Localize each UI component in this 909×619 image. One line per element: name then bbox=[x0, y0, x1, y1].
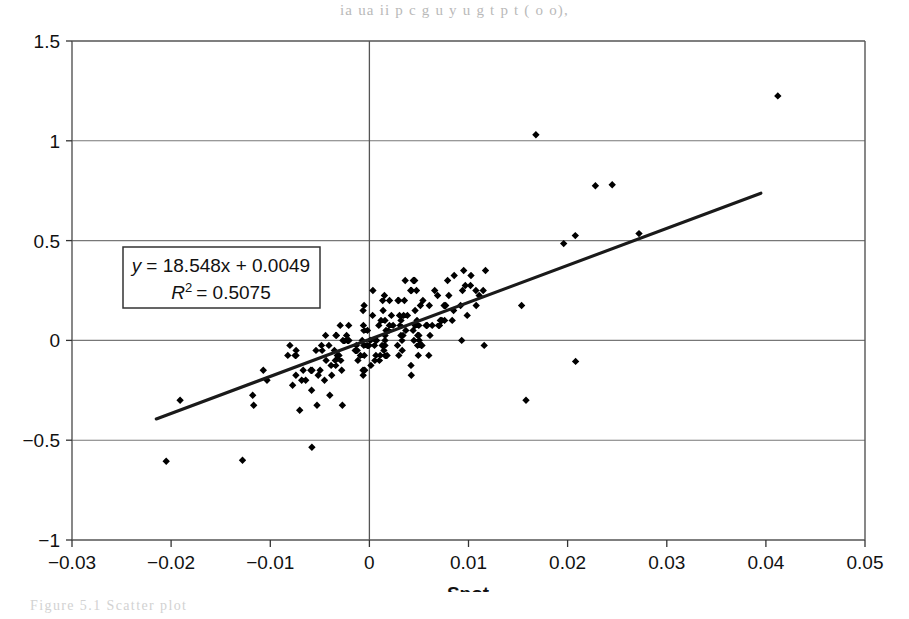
y-axis-ticks bbox=[66, 41, 72, 540]
y-tick-label: 1.5 bbox=[34, 31, 60, 52]
y-axis-tick-labels: 1.5 1 0.5 0 −0.5 −1 bbox=[22, 31, 60, 551]
equation-lhs: y bbox=[130, 255, 143, 276]
r-squared-value: = 0.5075 bbox=[196, 282, 271, 303]
scatter-chart: 1.5 1 0.5 0 −0.5 −1 −0.03 −0.02 −0.01 0 … bbox=[0, 18, 909, 592]
scatter-plot-figure: ia ua ii p c g u y u g t p t ( o o), bbox=[0, 0, 909, 619]
x-tick-label: 0.03 bbox=[648, 552, 685, 573]
equation-rhs: = 18.548x + 0.0049 bbox=[146, 255, 310, 276]
y-tick-label: −1 bbox=[38, 530, 60, 551]
x-tick-label: 0.02 bbox=[549, 552, 586, 573]
equation-line: y= 18.548x + 0.0049 bbox=[130, 255, 310, 276]
x-tick-label: −0.01 bbox=[246, 552, 294, 573]
r-squared-symbol: R bbox=[171, 282, 185, 303]
x-tick-label: −0.02 bbox=[147, 552, 195, 573]
x-axis-tick-labels: −0.03 −0.02 −0.01 0 0.01 0.02 0.03 0.04 … bbox=[48, 552, 884, 573]
x-tick-label: −0.03 bbox=[48, 552, 96, 573]
y-tick-label: 1 bbox=[49, 131, 60, 152]
y-tick-label: 0.5 bbox=[34, 231, 60, 252]
x-tick-label: 0.04 bbox=[747, 552, 784, 573]
y-tick-label: 0 bbox=[49, 330, 60, 351]
y-tick-label: −0.5 bbox=[22, 430, 60, 451]
regression-equation-annotation: y= 18.548x + 0.0049 R2= 0.5075 bbox=[123, 247, 320, 308]
x-tick-label: 0.05 bbox=[847, 552, 884, 573]
page-bleed-bottom-text: Figure 5.1 Scatter plot bbox=[0, 592, 909, 619]
x-tick-label: 0.01 bbox=[450, 552, 487, 573]
r-squared-exponent: 2 bbox=[185, 280, 192, 295]
page-bleed-top-text: ia ua ii p c g u y u g t p t ( o o), bbox=[0, 0, 909, 20]
x-axis-title: Spot bbox=[447, 583, 490, 592]
x-tick-label: 0 bbox=[364, 552, 375, 573]
x-axis-ticks bbox=[72, 540, 865, 547]
